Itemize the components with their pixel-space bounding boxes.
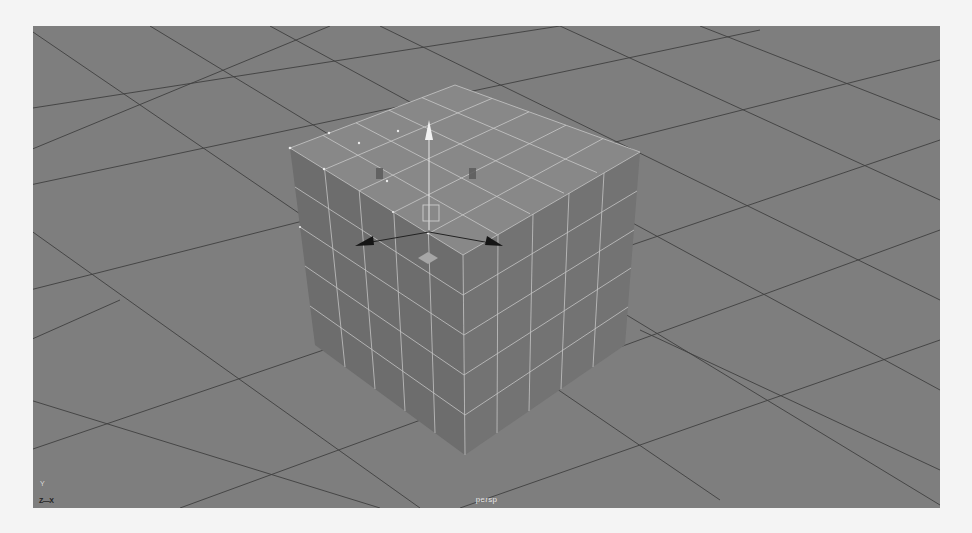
camera-name-label: persp: [33, 495, 940, 504]
3d-viewport[interactable]: Y Z—X persp: [33, 26, 940, 508]
x-plane-handle[interactable]: [376, 168, 383, 179]
cube-object[interactable]: [290, 85, 640, 455]
z-plane-handle[interactable]: [469, 168, 476, 179]
scene-canvas[interactable]: [33, 26, 940, 508]
axis-y-label: Y: [40, 480, 45, 487]
